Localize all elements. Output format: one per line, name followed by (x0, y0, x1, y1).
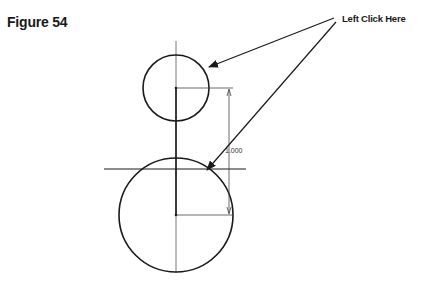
cad-drawing (0, 0, 422, 287)
leader-to-small-circle (209, 18, 334, 67)
leader-to-intersection (207, 22, 336, 170)
